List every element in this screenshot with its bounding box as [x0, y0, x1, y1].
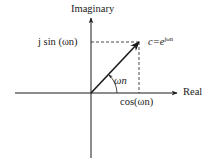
real-projection-label: cos(ωn) — [120, 97, 153, 108]
point-c-exponent: jωn — [164, 36, 173, 42]
point-c-base: c=e — [148, 36, 164, 47]
angle-label-text: ωn — [114, 75, 127, 86]
angle-label: ωn — [114, 76, 127, 87]
imag-projection-label: j sin (ωn) — [38, 37, 78, 48]
imaginary-axis-label: Imaginary — [71, 4, 114, 15]
complex-plane-diagram — [0, 0, 220, 166]
real-axis-label: Real — [183, 87, 202, 98]
point-c-label: c=ejωn — [148, 37, 173, 48]
